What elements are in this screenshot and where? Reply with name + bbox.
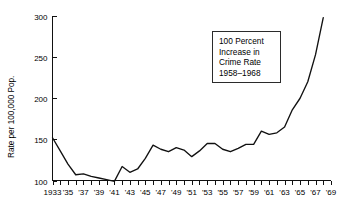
crime-rate-line (53, 18, 324, 182)
y-axis-ticks (53, 17, 57, 182)
x-tick-label: '37 (78, 188, 89, 197)
x-tick-label: '43 (125, 188, 136, 197)
callout-line: Increase in (219, 47, 274, 58)
callout-line: Crime Rate (219, 57, 274, 68)
x-tick-label: '51 (187, 188, 198, 197)
x-tick-label: '39 (94, 188, 105, 197)
callout-line: 100 Percent (219, 36, 274, 47)
x-tick-label: '63 (279, 188, 290, 197)
chart-plot-area: 100150200250300 1933'35'37'39'41'43'45'4… (0, 0, 345, 207)
x-tick-label: '57 (233, 188, 244, 197)
y-tick-label: 150 (34, 136, 48, 145)
crime-rate-series (53, 18, 324, 182)
x-tick-label: '67 (310, 188, 321, 197)
callout-line: 1958–1968 (219, 68, 274, 79)
y-tick-label: 300 (34, 13, 48, 22)
crime-rate-chart: 100150200250300 1933'35'37'39'41'43'45'4… (0, 0, 345, 207)
x-axis-tick-labels: 1933'35'37'39'41'43'45'47'49'51'53'55'57… (44, 188, 337, 197)
x-tick-label: '45 (140, 188, 151, 197)
x-tick-label: '69 (326, 188, 337, 197)
y-axis-tick-labels: 100150200250300 (34, 13, 48, 187)
x-tick-label: '65 (295, 188, 306, 197)
y-tick-label: 250 (34, 54, 48, 63)
x-tick-label: '41 (109, 188, 120, 197)
x-tick-label: '47 (156, 188, 167, 197)
y-axis-title-text: Rate per 100,000 Pop. (7, 76, 16, 158)
x-tick-label: '55 (217, 188, 228, 197)
crime-rate-callout: 100 PercentIncrease inCrime Rate1958–196… (212, 31, 281, 83)
y-axis-title: Rate per 100,000 Pop. (7, 76, 16, 158)
x-tick-label: '61 (264, 188, 275, 197)
x-tick-label: 1933 (44, 188, 62, 197)
x-tick-label: '59 (248, 188, 259, 197)
x-tick-label: '49 (171, 188, 182, 197)
x-tick-label: '53 (202, 188, 213, 197)
x-axis-ticks (54, 181, 332, 185)
y-tick-label: 200 (34, 95, 48, 104)
y-tick-label: 100 (34, 178, 48, 187)
x-tick-label: '35 (63, 188, 74, 197)
